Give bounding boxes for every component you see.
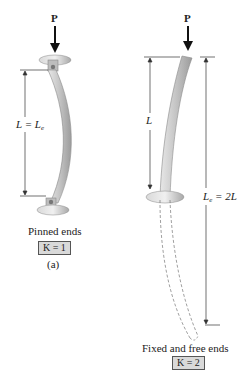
length-label-b: L <box>146 114 152 126</box>
bottom-pin-support <box>37 198 69 215</box>
load-label-a: P <box>51 12 58 24</box>
mirrored-deflection-outline <box>160 200 198 338</box>
length-label-a: L = Le <box>16 118 44 132</box>
dimension-line-a <box>20 70 48 196</box>
pinned-column <box>48 70 71 203</box>
fixed-free-column <box>160 56 192 198</box>
fixed-base-plate <box>146 191 184 203</box>
caption-b: Fixed and free ends <box>142 342 228 354</box>
k-factor-badge-b: K = 2 <box>172 356 205 370</box>
fixed-free-column-figure <box>144 26 220 340</box>
load-arrow-icon <box>50 26 60 53</box>
part-label-a: (a) <box>47 258 59 270</box>
length-label-a-main: L = L <box>16 118 41 130</box>
k-factor-badge-a: K = 1 <box>38 241 71 255</box>
buckling-diagram <box>0 0 245 370</box>
caption-a: Pinned ends <box>28 225 81 237</box>
load-arrow-icon <box>183 26 193 51</box>
effective-length-rest: = 2L <box>212 190 237 202</box>
load-label-b: P <box>184 12 191 24</box>
top-pin-support <box>39 55 71 71</box>
effective-length-label-b: Le = 2L <box>203 190 237 204</box>
length-label-a-sub: e <box>41 124 44 132</box>
